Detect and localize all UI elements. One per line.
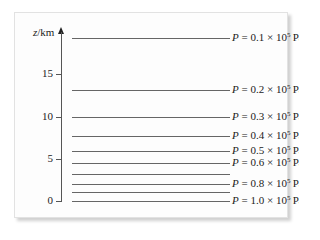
pressure-var: P [232,83,239,95]
pressure-unit: Pa [293,156,299,168]
pressure-label: P = 0.8 × 105 Pa [232,178,299,189]
pressure-unit: Pa [293,83,299,95]
pressure-label: P = 0.6 × 105 Pa [232,157,299,168]
pressure-var: P [232,31,239,43]
pressure-var: P [232,129,239,141]
y-tick [56,201,61,202]
isobar-line [72,151,230,152]
isobar-line [72,192,230,193]
pressure-var: P [232,156,239,168]
pressure-unit: Pa [293,194,299,206]
isobar-line [72,90,230,91]
isobar-line [72,136,230,137]
pressure-coef: 0.2 [250,83,264,95]
pressure-coef: 1.0 [250,194,264,206]
y-tick-label: 15 [33,67,53,79]
pressure-var: P [232,110,239,122]
y-axis-unit: /km [37,26,54,38]
z-axis [61,32,62,202]
pressure-coef: 0.5 [250,144,264,156]
pressure-label: P = 0.1 × 105 Pa [232,32,299,43]
pressure-label: P = 0.5 × 105 Pa [232,145,299,156]
pressure-exp: 5 [287,144,291,152]
isobar-line [72,38,230,39]
pressure-unit: Pa [293,144,299,156]
pressure-exp: 5 [287,31,291,39]
pressure-unit: Pa [293,177,299,189]
pressure-unit: Pa [293,129,299,141]
y-tick [56,74,61,75]
pressure-exp: 5 [287,177,291,185]
y-tick-label: 5 [33,152,53,164]
y-tick-label: 0 [33,194,53,206]
pressure-exp: 5 [287,156,291,164]
pressure-label: P = 0.4 × 105 Pa [232,130,299,141]
pressure-unit: Pa [293,110,299,122]
pressure-coef: 0.3 [250,110,264,122]
pressure-exp: 5 [287,110,291,118]
pressure-coef: 0.1 [250,31,264,43]
isobar-line [72,174,230,175]
isobar-line [72,163,230,164]
y-tick-label: 10 [33,110,53,122]
pressure-var: P [232,194,239,206]
pressure-coef: 0.8 [250,177,264,189]
pressure-coef: 0.4 [250,129,264,141]
y-axis-label: z/km [33,26,54,38]
pressure-coef: 0.6 [250,156,264,168]
pressure-label: P = 0.2 × 105 Pa [232,84,299,95]
isobar-line [72,201,230,202]
isobar-line [72,184,230,185]
pressure-exp: 5 [287,83,291,91]
pressure-unit: Pa [293,31,299,43]
y-tick [56,159,61,160]
pressure-label: P = 0.3 × 105 Pa [232,111,299,122]
pressure-exp: 5 [287,129,291,137]
pressure-var: P [232,144,239,156]
pressure-exp: 5 [287,194,291,202]
pressure-var: P [232,177,239,189]
y-tick [56,117,61,118]
isobar-line [72,117,230,118]
pressure-label: P = 1.0 × 105 Pa [232,195,299,206]
